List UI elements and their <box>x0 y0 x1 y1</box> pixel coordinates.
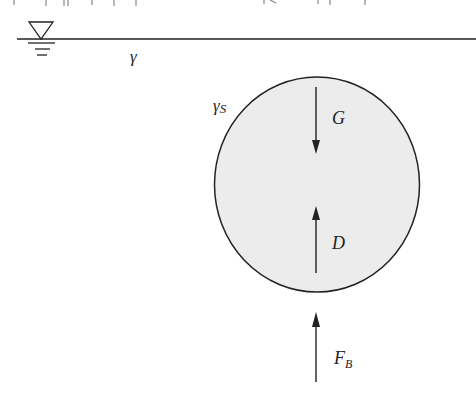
fluid-weight-label: γ <box>130 47 138 66</box>
cropped-caption-text <box>14 0 365 6</box>
buoyancy-force-label: FB <box>333 348 353 371</box>
settling-particle-diagram: γ γS G D FB <box>0 0 476 394</box>
particle-weight-label: γS <box>213 96 227 116</box>
gravity-force-label: G <box>332 108 345 128</box>
buoyancy-force-arrow-icon <box>312 312 320 382</box>
drag-force-label: D <box>331 233 345 253</box>
particle-sphere <box>215 77 420 292</box>
